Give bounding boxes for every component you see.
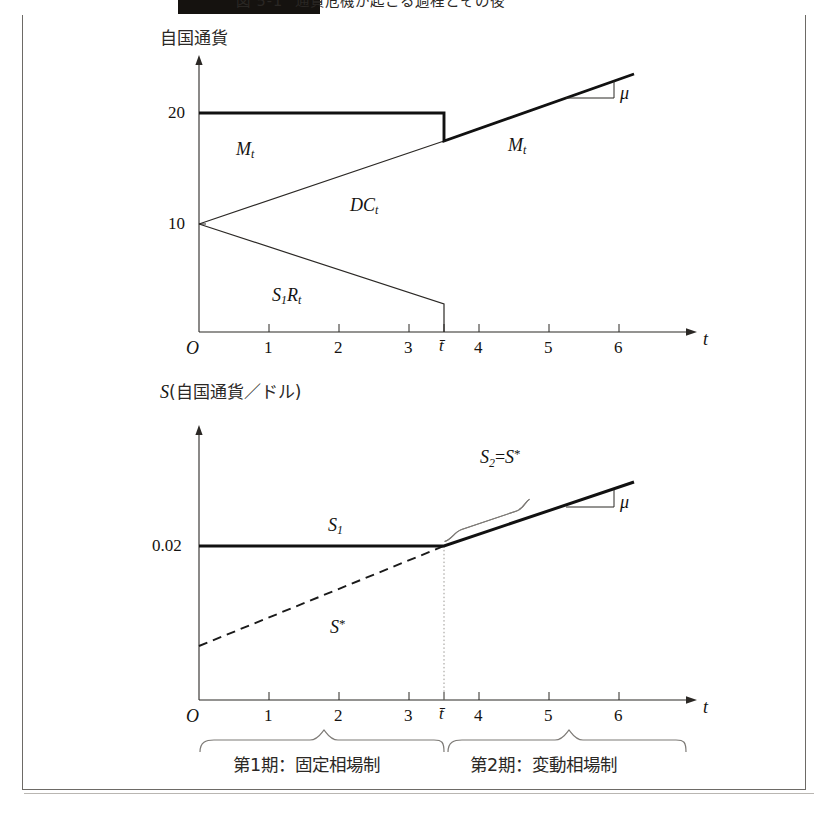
lower-label-s2-eq-sstar: S2=S* [480, 448, 521, 470]
lower-series-sstar [199, 546, 444, 646]
lower-y-axis-paren: (自国通貨／ドル) [169, 382, 301, 402]
sstar-star-a: * [514, 446, 520, 461]
lower-label-mu: μ [620, 493, 629, 511]
period-1-label: 第1期：固定相場制 [233, 757, 380, 775]
sstar-star-b: * [339, 616, 345, 631]
lower-series-s [199, 482, 634, 546]
lower-ytick-label-002: 0.02 [152, 537, 182, 554]
lower-xtick-label-3: 3 [404, 707, 413, 724]
period-2-brace [448, 730, 686, 752]
lower-y-axis-s: S [160, 382, 169, 402]
lower-y-axis-label: S(自国通貨／ドル) [160, 383, 301, 401]
lower-y-axis-arrow [195, 425, 202, 435]
lower-chart-canvas [0, 0, 829, 816]
lower-x-axis-label: t [703, 698, 708, 716]
lower-label-s1: S1 [328, 516, 343, 537]
s2-glyph: S [480, 447, 489, 467]
period-1-brace [200, 730, 444, 752]
sstar-glyph-a: S [505, 447, 514, 467]
lower-origin-label: O [186, 707, 199, 725]
lower-xtick-label-4: 4 [474, 707, 483, 724]
s1-sub-1: 1 [337, 523, 343, 537]
lower-x-axis-arrow [686, 696, 697, 703]
lower-label-sstar: S* [330, 618, 345, 636]
lower-xtick-label-6: 6 [614, 707, 623, 724]
lower-xtick-label-tbar: t̄ [439, 705, 444, 722]
equals-glyph: = [495, 447, 505, 467]
sstar-glyph-b: S [330, 617, 339, 637]
lower-xtick-label-5: 5 [544, 707, 553, 724]
lower-xtick-label-1: 1 [264, 707, 273, 724]
s1-glyph: S [328, 515, 337, 535]
lower-xtick-label-2: 2 [334, 707, 343, 724]
period-2-label: 第2期：変動相場制 [470, 757, 617, 775]
figure-root: 図 5-1 通貨危機が起こる過程とその後 自国通貨 20 [0, 0, 829, 816]
